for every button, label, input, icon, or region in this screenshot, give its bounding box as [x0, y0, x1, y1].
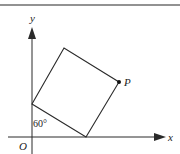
origin-label: O: [19, 140, 27, 152]
y-axis-label: y: [29, 12, 35, 24]
angle-label: 60°: [33, 118, 47, 129]
geometry-diagram: y x O P 60°: [0, 0, 180, 154]
x-axis-label: x: [167, 131, 173, 143]
y-axis-arrow-icon: [28, 27, 36, 39]
point-p-label: P: [123, 76, 131, 88]
x-axis-arrow-icon: [154, 133, 166, 141]
point-p-marker: [117, 80, 121, 84]
y-axis: [28, 27, 36, 154]
